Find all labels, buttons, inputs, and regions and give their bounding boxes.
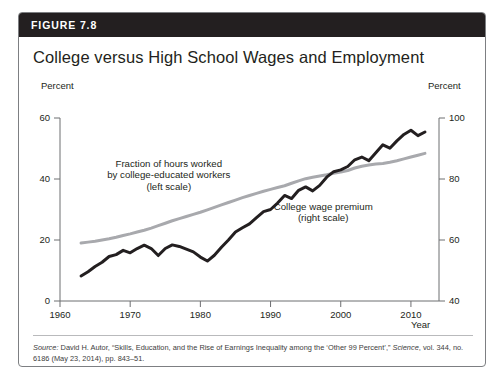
right-tick-label: 80 (449, 173, 460, 184)
figure-number-label: FIGURE 7.8 (31, 19, 97, 31)
right-tick-label: 100 (449, 112, 465, 123)
college-wage-premium-label: College wage premium(right scale) (274, 201, 373, 224)
right-tick-label: 40 (449, 295, 460, 306)
series-line-college-wage-premium (81, 130, 425, 276)
x-tick-label: 1990 (260, 309, 281, 320)
fraction-hours-label: Fraction of hours workedby college-educa… (107, 158, 230, 192)
chart-series-group (81, 130, 425, 276)
chart-annotations: Fraction of hours workedby college-educa… (107, 158, 373, 223)
x-axis-ticks: 196019701980199020002010 (49, 301, 421, 320)
chart-plot-area: 0204060 406080100 1960197019801990200020… (19, 75, 485, 330)
page-title: College versus High School Wages and Emp… (19, 37, 485, 67)
x-axis-title: Year (411, 319, 430, 330)
source-note: Source: David H. Autor, “Skills, Educati… (33, 335, 473, 364)
left-axis-ticks: 0204060 (39, 112, 60, 306)
figure-card: FIGURE 7.8 College versus High School Wa… (18, 12, 486, 367)
left-axis-unit-label: Percent (41, 80, 74, 91)
x-tick-label: 1980 (190, 309, 211, 320)
right-tick-label: 60 (449, 234, 460, 245)
source-body-first: David H. Autor, “Skills, Education, and … (58, 343, 392, 352)
source-prefix: Source: (33, 343, 58, 352)
x-tick-label: 1960 (49, 309, 70, 320)
left-tick-label: 20 (39, 234, 50, 245)
x-tick-label: 2000 (330, 309, 351, 320)
x-tick-label: 1970 (120, 309, 141, 320)
left-tick-label: 60 (39, 112, 50, 123)
right-axis-ticks: 406080100 (439, 112, 465, 306)
wages-employment-line-chart: 0204060 406080100 1960197019801990200020… (19, 75, 485, 330)
source-journal: Science (392, 343, 418, 352)
left-tick-label: 0 (45, 295, 50, 306)
figure-header-bar: FIGURE 7.8 (19, 13, 485, 37)
left-tick-label: 40 (39, 173, 50, 184)
right-axis-unit-label: Percent (428, 80, 461, 91)
